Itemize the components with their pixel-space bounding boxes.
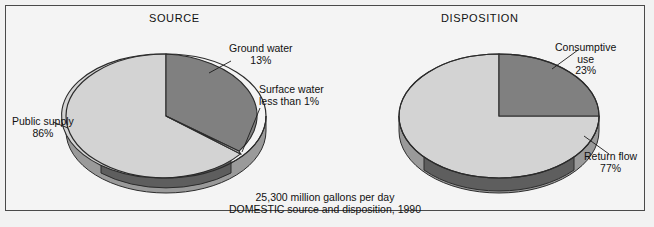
label-consumptive-use-pct: 23% — [555, 65, 616, 77]
figure-caption: 25,300 million gallons per day DOMESTIC … — [6, 191, 644, 215]
label-ground-water-name: Ground water — [229, 42, 293, 54]
figure-frame: SOURCE DISPOSITION Ground water 13% Surf… — [5, 5, 645, 211]
label-ground-water-pct: 13% — [229, 55, 293, 67]
label-return-flow-pct: 77% — [584, 163, 637, 175]
panel-title-disposition: DISPOSITION — [441, 12, 519, 24]
panel-title-source: SOURCE — [149, 12, 200, 24]
caption-line-1: 25,300 million gallons per day — [6, 191, 644, 203]
label-surface-water-name: Surface water — [259, 83, 324, 95]
label-ground-water: Ground water 13% — [229, 43, 293, 66]
label-surface-water: Surface water less than 1% — [259, 84, 324, 107]
label-public-supply: Public supply 86% — [12, 116, 74, 139]
label-public-supply-pct: 86% — [12, 128, 74, 140]
label-surface-water-pct: less than 1% — [259, 96, 324, 108]
label-return-flow: Return flow 77% — [584, 151, 637, 174]
caption-line-2: DOMESTIC source and disposition, 1990 — [6, 203, 644, 215]
label-public-supply-name: Public supply — [12, 115, 74, 127]
label-return-flow-name: Return flow — [584, 150, 637, 162]
label-consumptive-use-name: Consumptive — [555, 41, 616, 53]
label-consumptive-use: Consumptive use 23% — [555, 42, 616, 77]
